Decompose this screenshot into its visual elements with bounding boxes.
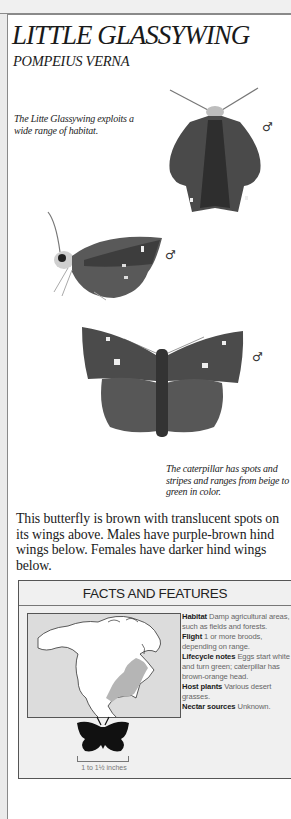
fact-habitat: Habitat Damp agricultural areas, such as… <box>182 612 291 632</box>
north-america-map-icon <box>28 614 181 718</box>
page-title: LITTLE GLASSYWING <box>12 20 249 51</box>
range-map <box>27 613 181 718</box>
fact-host-plants: Host plants Various desert grasses. <box>182 682 291 702</box>
wingspan-size-label: 1 to 1½ inches <box>59 764 149 771</box>
male-symbol: ♂ <box>165 248 176 262</box>
butterfly-silhouette-icon <box>73 715 133 755</box>
butterfly-side-view-illustration <box>44 202 174 302</box>
fact-nectar-sources: Nectar sources Unknown. <box>182 702 291 712</box>
fact-flight: Flight 1 or more broods, depending on ra… <box>182 632 291 652</box>
fact-lifecycle: Lifecycle notes Eggs start white and tur… <box>182 652 291 682</box>
caterpillar-caption: The caterpillar has spots and stripes an… <box>166 463 291 498</box>
scientific-name: POMPEIUS VERNA <box>13 53 129 70</box>
butterfly-top-view-illustration <box>160 80 270 220</box>
size-scale-bracket <box>77 756 129 762</box>
male-symbol: ♂ <box>252 350 263 364</box>
habitat-caption: The Litte Glassywing exploits a wide ran… <box>14 113 134 136</box>
facts-list: Habitat Damp agricultural areas, such as… <box>182 612 291 712</box>
top-strip <box>0 0 291 14</box>
male-symbol: ♂ <box>262 120 273 134</box>
butterfly-spread-wings-illustration <box>80 325 245 440</box>
description-text: This butterfly is brown with translucent… <box>16 511 291 573</box>
facts-heading: FACTS AND FEATURES <box>19 581 291 606</box>
facts-and-features-panel: FACTS AND FEATURES Habitat Damp agricult… <box>18 580 291 779</box>
